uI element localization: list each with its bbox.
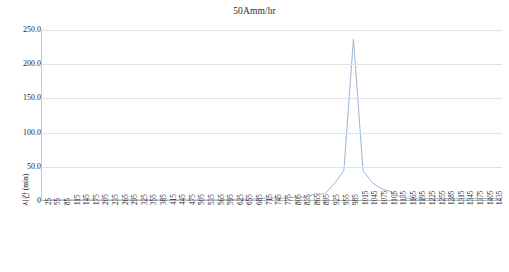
x-axis-tick-label: 1225 [430,191,437,205]
x-axis-tick-label: 1405 [488,191,495,205]
gridline [42,64,502,65]
chart-title: 50Amm/hr [0,6,509,16]
x-axis-tick-label: 475 [190,194,197,205]
x-axis-tick-label: 205 [103,194,110,205]
x-axis: 2555851151451752052352652953253553854154… [41,202,502,250]
x-axis-tick-label: 1435 [497,191,504,205]
x-axis-tick-label: 805 [296,194,303,205]
x-axis-tick-label: 1255 [440,191,447,205]
x-axis-tick-label: 595 [228,194,235,205]
x-axis-tick-label: 85 [65,198,72,205]
x-axis-tick-label: 1345 [468,191,475,205]
x-axis-tick-label: 415 [171,194,178,205]
x-axis-tick-label: 865 [315,194,322,205]
gridline [42,133,502,134]
x-axis-tick-label: 1375 [478,191,485,205]
chart-container: 50Amm/hr 050.0100.0150.0200.0250.0 25558… [0,0,509,272]
x-axis-tick-label: 895 [324,194,331,205]
x-axis-title: 시간 (min) [22,174,29,206]
data-series-line [42,30,502,200]
y-axis-tick-label: 250.0 [3,26,41,34]
x-axis-tick-label: 1015 [363,191,370,205]
x-axis-tick-label: 685 [257,194,264,205]
x-axis-tick-label: 325 [142,194,149,205]
x-axis-tick-label: 1105 [392,191,399,205]
x-axis-tick-label: 715 [267,194,274,205]
x-axis-tick-label: 985 [353,194,360,205]
x-axis-tick-label: 625 [238,194,245,205]
x-axis-tick-label: 835 [305,194,312,205]
x-axis-tick-label: 55 [55,198,62,205]
x-axis-tick-label: 355 [151,194,158,205]
x-axis-tick-label: 145 [84,194,91,205]
gridline [42,167,502,168]
x-axis-tick-label: 1075 [382,191,389,205]
x-axis-tick-label: 745 [276,194,283,205]
x-axis-tick-label: 175 [94,194,101,205]
x-axis-tick-label: 775 [286,194,293,205]
x-axis-tick-label: 295 [132,194,139,205]
x-axis-tick-label: 1135 [401,191,408,205]
x-axis-tick-label: 1165 [411,191,418,205]
x-axis-tick-label: 115 [75,194,82,205]
x-axis-tick-label: 385 [161,194,168,205]
x-axis-tick-label: 265 [123,194,130,205]
x-axis-tick-label: 1045 [372,191,379,205]
gridline [42,98,502,99]
x-axis-tick-label: 505 [199,194,206,205]
x-axis-tick-label: 1285 [449,191,456,205]
x-axis-tick-label: 925 [334,194,341,205]
x-axis-tick-label: 535 [209,194,216,205]
x-axis-tick-label: 655 [247,194,254,205]
x-axis-tick-label: 1195 [420,191,427,205]
x-axis-tick-label: 445 [180,194,187,205]
x-axis-tick-label: 955 [344,194,351,205]
x-axis-tick-label: 1315 [459,191,466,205]
y-axis-tick-label: 150.0 [3,94,41,102]
y-axis-tick-label: 50.0 [3,163,41,171]
plot-area [41,30,502,201]
x-axis-tick-label: 235 [113,194,120,205]
x-axis-tick-label: 565 [219,194,226,205]
y-axis-tick-label: 100.0 [3,129,41,137]
gridline [42,30,502,31]
x-axis-tick-label: 25 [46,198,53,205]
y-axis-tick-label: 200.0 [3,60,41,68]
